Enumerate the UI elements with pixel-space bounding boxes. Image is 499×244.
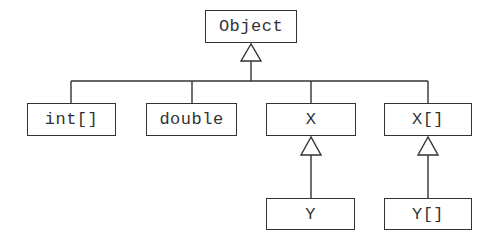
node-x-array: X[] xyxy=(384,103,472,136)
node-label: X[] xyxy=(412,110,444,129)
node-label: Y xyxy=(305,205,316,224)
node-int-array: int[] xyxy=(27,103,116,136)
node-label: double xyxy=(159,110,223,129)
inheritance-arrow-icon xyxy=(301,137,321,155)
node-label: X xyxy=(306,110,317,129)
node-object: Object xyxy=(205,10,297,43)
inheritance-arrow-icon xyxy=(418,137,438,155)
node-label: int[] xyxy=(45,110,99,129)
node-y-array: Y[] xyxy=(384,198,472,230)
node-x: X xyxy=(266,103,356,136)
node-y: Y xyxy=(266,198,355,230)
node-label: Object xyxy=(219,17,283,36)
node-double: double xyxy=(146,103,237,136)
inheritance-arrow-icon xyxy=(241,44,261,61)
node-label: Y[] xyxy=(412,205,444,224)
